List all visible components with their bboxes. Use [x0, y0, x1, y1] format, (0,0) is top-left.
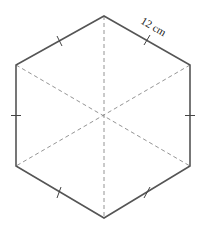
- hexagon-outline: [16, 16, 190, 218]
- side-length-label: 12 cm: [139, 14, 169, 38]
- hexagon-diagram: 12 cm: [0, 0, 201, 229]
- equal-side-ticks: [11, 35, 195, 198]
- diagonals: [16, 16, 190, 218]
